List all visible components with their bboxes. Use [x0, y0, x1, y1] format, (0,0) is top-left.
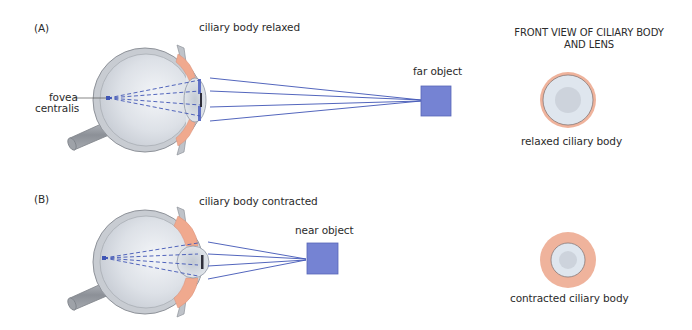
front-view-heading: FRONT VIEW OF CILIARY BODY AND LENS [502, 27, 676, 51]
front-view-heading-line1: FRONT VIEW OF CILIARY BODY [502, 27, 676, 39]
front-view-relaxed [540, 72, 596, 128]
front-view-contracted [540, 232, 596, 288]
panel-label-a: (A) [34, 22, 49, 34]
eye-panel-a [66, 45, 451, 155]
panel-label-b: (B) [34, 193, 49, 205]
near-object [307, 243, 338, 274]
far-object [421, 86, 451, 116]
far-object-label: far object [413, 65, 462, 77]
front-view-heading-line2: AND LENS [502, 39, 676, 51]
contracted-caption: contracted ciliary body [510, 292, 629, 304]
fovea-label-line2: centralis [35, 102, 79, 114]
relaxed-caption: relaxed ciliary body [521, 135, 622, 147]
ciliary-contracted-label: ciliary body contracted [199, 195, 318, 207]
near-object-label: near object [295, 224, 353, 236]
ciliary-relaxed-label: ciliary body relaxed [199, 21, 300, 33]
lens [184, 78, 206, 122]
fovea-centralis [106, 96, 110, 100]
